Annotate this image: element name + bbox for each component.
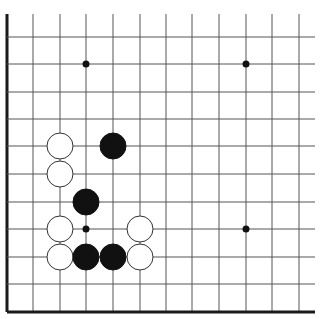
black-stone xyxy=(73,189,99,215)
black-stone xyxy=(73,244,99,270)
white-stone xyxy=(47,244,73,270)
black-stone xyxy=(100,133,126,159)
white-stone xyxy=(127,216,153,242)
go-board xyxy=(0,0,322,319)
star-point-icon xyxy=(83,226,90,233)
white-stone xyxy=(47,133,73,159)
star-point-icon xyxy=(243,61,250,68)
white-stone xyxy=(127,244,153,270)
white-stone xyxy=(47,216,73,242)
star-point-icon xyxy=(243,226,250,233)
star-point-icon xyxy=(83,61,90,68)
white-stone xyxy=(47,161,73,187)
black-stone xyxy=(100,244,126,270)
